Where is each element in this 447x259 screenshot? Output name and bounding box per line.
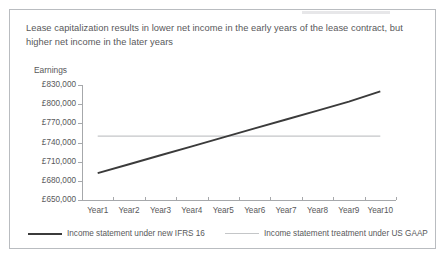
legend-item-usgaap[interactable]: Income statement treatment under US GAAP [225,229,428,238]
legend-item-ifrs16[interactable]: Income statement under new IFRS 16 [28,229,205,238]
legend-line-icon-usgaap [225,233,259,234]
slide-frame: Lease capitalization results in lower ne… [9,9,436,249]
legend-label-ifrs16: Income statement under new IFRS 16 [67,229,205,238]
legend-label-usgaap: Income statement treatment under US GAAP [264,229,428,238]
plot-area: £830,000£800,000£770,000£740,000£710,000… [10,10,437,250]
series-lines [10,10,437,250]
chart-legend: Income statement under new IFRS 16 Incom… [10,226,437,244]
series-line [98,91,381,173]
legend-line-icon-ifrs16 [28,233,62,235]
